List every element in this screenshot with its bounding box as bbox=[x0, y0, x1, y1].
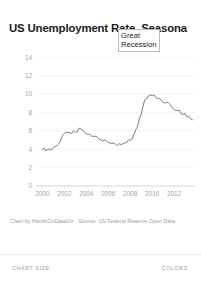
y-tick-label: 12 bbox=[25, 72, 33, 79]
unemployment-rate-line bbox=[42, 95, 192, 151]
x-tick-label: 2002 bbox=[57, 190, 72, 197]
colors-label[interactable]: COLORS bbox=[162, 265, 188, 271]
x-axis-tick-labels: 2000200220042006200820102012 bbox=[35, 186, 181, 197]
y-tick-label: 0 bbox=[28, 182, 32, 189]
x-tick-label: 2006 bbox=[101, 190, 116, 197]
x-tick-label: 2008 bbox=[123, 190, 138, 197]
line-chart-svg: 02468101214 2000200220042006200820102012 bbox=[0, 42, 201, 210]
x-tick-label: 2010 bbox=[145, 190, 160, 197]
editor-bottom-bar: CHART SIZE COLORS bbox=[0, 254, 201, 284]
x-tick-label: 2004 bbox=[79, 190, 94, 197]
annotation-line-2: Recession bbox=[121, 40, 157, 49]
y-tick-label: 10 bbox=[25, 90, 33, 97]
y-axis-tick-labels: 02468101214 bbox=[25, 54, 33, 190]
y-tick-label: 14 bbox=[25, 54, 33, 61]
chart-size-label[interactable]: CHART SIZE bbox=[12, 265, 50, 271]
y-tick-label: 4 bbox=[28, 146, 32, 153]
x-tick-label: 2012 bbox=[167, 190, 182, 197]
chart-credit-source: Chart by HandsOnDataViz · Source: US Fed… bbox=[10, 218, 175, 224]
y-tick-label: 2 bbox=[28, 164, 32, 171]
y-tick-label: 6 bbox=[28, 127, 32, 134]
gridlines bbox=[38, 57, 195, 167]
chart-plot-area: 02468101214 2000200220042006200820102012 bbox=[0, 42, 201, 210]
chart-card: US Unemployment Rate, Seasona 0246810121… bbox=[0, 0, 201, 254]
chart-editor-preview: US Unemployment Rate, Seasona 0246810121… bbox=[0, 0, 201, 284]
x-tick-label: 2000 bbox=[35, 190, 50, 197]
annotation-line-1: Great bbox=[121, 31, 157, 40]
great-recession-annotation[interactable]: Great Recession bbox=[118, 29, 160, 52]
page-title: US Unemployment Rate, Seasona bbox=[9, 21, 201, 35]
y-tick-label: 8 bbox=[28, 109, 32, 116]
